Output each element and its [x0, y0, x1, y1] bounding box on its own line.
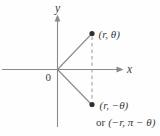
point-lower-label: (r, −θ)	[100, 99, 129, 112]
x-axis-arrowhead	[117, 67, 124, 73]
point-lower-alt-prefix: or	[96, 116, 106, 128]
polar-symmetry-figure: y x 0 (r, θ) (r, −θ) or(−r, π − θ)	[0, 0, 160, 136]
origin-label: 0	[46, 71, 52, 83]
radius-line-lower	[58, 70, 92, 105]
y-axis-label: y	[54, 2, 61, 15]
point-upper-dot	[89, 31, 94, 36]
point-lower-alt-label: or(−r, π − θ)	[96, 116, 156, 129]
point-lower-dot	[89, 102, 94, 107]
y-axis-arrowhead	[55, 15, 61, 22]
point-lower-alt-expression: (−r, π − θ)	[108, 116, 155, 129]
diagram-canvas: y x 0 (r, θ) (r, −θ) or(−r, π − θ)	[0, 0, 160, 136]
radius-line-upper	[58, 34, 92, 70]
x-axis-label: x	[126, 63, 133, 75]
point-upper-label: (r, θ)	[99, 28, 121, 41]
